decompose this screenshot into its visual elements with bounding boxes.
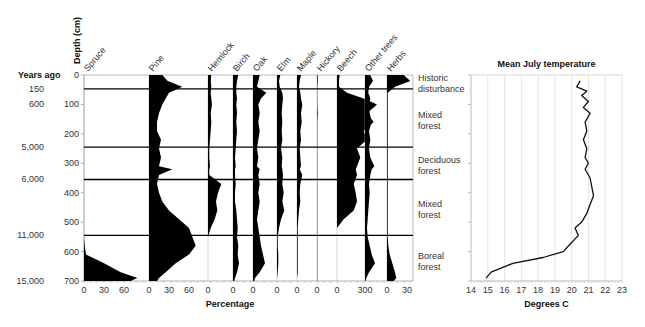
zone-label: forest bbox=[418, 210, 441, 220]
percentage-axis-title: Percentage bbox=[206, 299, 255, 309]
years-ago-title: Years ago bbox=[18, 70, 61, 80]
taxon-tick-label: 30 bbox=[99, 285, 109, 295]
taxon-tick-label: 0 bbox=[334, 285, 339, 295]
temp-tick-label: 20 bbox=[567, 285, 577, 295]
zone-label: disturbance bbox=[418, 84, 465, 94]
taxon-label: Birch bbox=[231, 51, 252, 73]
taxon-tick-label: 30 bbox=[164, 285, 174, 295]
taxon-label: Elm bbox=[275, 55, 293, 73]
taxon-label: Spruce bbox=[82, 45, 108, 73]
temp-tick-label: 23 bbox=[617, 285, 627, 295]
taxon-tick-label: 30 bbox=[402, 285, 412, 295]
zone-label: Mixed bbox=[418, 110, 442, 120]
taxon-area-birch bbox=[233, 75, 239, 281]
depth-tick-label: 200 bbox=[64, 129, 79, 139]
pollen-and-temperature-chart: 0100200300400500600700Depth (cm)Years ag… bbox=[0, 0, 645, 327]
temp-tick-label: 19 bbox=[550, 285, 560, 295]
temperature-line bbox=[486, 81, 593, 278]
taxon-tick-label: 300 bbox=[357, 285, 372, 295]
zone-label: forest bbox=[418, 121, 441, 131]
years-ago-label: 11,000 bbox=[17, 230, 44, 240]
taxon-tick-label: 0 bbox=[81, 285, 86, 295]
depth-tick-label: 100 bbox=[64, 99, 79, 109]
taxon-area-herbs bbox=[387, 75, 410, 281]
depth-tick-label: 400 bbox=[64, 188, 79, 198]
taxon-area-elm bbox=[277, 75, 284, 281]
taxon-tick-label: 0 bbox=[314, 285, 319, 295]
temp-tick-label: 22 bbox=[600, 285, 610, 295]
temp-tick-label: 16 bbox=[500, 285, 510, 295]
zone-label: forest bbox=[418, 166, 441, 176]
temp-tick-label: 17 bbox=[516, 285, 526, 295]
taxon-tick-label: 0 bbox=[294, 285, 299, 295]
taxon-area-hemlock bbox=[208, 75, 221, 281]
years-ago-label: 15,000 bbox=[16, 276, 44, 286]
zone-label: Historic bbox=[418, 73, 449, 83]
taxon-tick-label: 60 bbox=[119, 285, 129, 295]
temp-tick-label: 21 bbox=[583, 285, 593, 295]
temp-chart-title: Mean July temperature bbox=[497, 59, 595, 69]
taxon-label: Pine bbox=[147, 53, 166, 73]
zone-label: Deciduous bbox=[418, 155, 461, 165]
depth-tick-label: 300 bbox=[64, 158, 79, 168]
taxon-area-pine bbox=[149, 75, 196, 281]
zone-label: forest bbox=[418, 262, 441, 272]
taxon-tick-label: 0 bbox=[250, 285, 255, 295]
taxon-tick-label: 0 bbox=[230, 285, 235, 295]
pollen-panel: 0100200300400500600700Depth (cm)Years ag… bbox=[16, 17, 464, 309]
depth-tick-label: 0 bbox=[74, 70, 79, 80]
depth-tick-label: 700 bbox=[64, 276, 79, 286]
zone-label: Boreal bbox=[418, 251, 444, 261]
taxon-area-maple bbox=[297, 75, 302, 281]
taxon-area-hickory bbox=[317, 75, 318, 281]
taxon-tick-label: 0 bbox=[205, 285, 210, 295]
taxon-tick-label: 0 bbox=[274, 285, 279, 295]
temp-tick-label: 14 bbox=[466, 285, 476, 295]
taxon-label: Oak bbox=[251, 54, 270, 73]
taxon-area-beech bbox=[337, 75, 377, 281]
taxon-tick-label: 60 bbox=[184, 285, 194, 295]
taxon-tick-label: 0 bbox=[384, 285, 389, 295]
temp-tick-label: 15 bbox=[483, 285, 493, 295]
taxon-label: Maple bbox=[295, 48, 318, 73]
years-ago-label: 600 bbox=[29, 99, 44, 109]
years-ago-label: 5,000 bbox=[21, 142, 44, 152]
temp-tick-label: 18 bbox=[533, 285, 543, 295]
taxon-area-spruce bbox=[84, 75, 137, 281]
temperature-panel: 14151617181920212223Mean July temperatur… bbox=[466, 59, 627, 309]
taxon-area-oak bbox=[253, 75, 266, 281]
taxon-tick-label: 0 bbox=[146, 285, 151, 295]
years-ago-label: 6,000 bbox=[21, 174, 44, 184]
years-ago-label: 150 bbox=[29, 84, 44, 94]
depth-tick-label: 500 bbox=[64, 217, 79, 227]
depth-axis-title: Depth (cm) bbox=[72, 17, 82, 64]
zone-label: Mixed bbox=[418, 199, 442, 209]
temp-axis-title: Degrees C bbox=[524, 299, 569, 309]
depth-tick-label: 600 bbox=[64, 247, 79, 257]
